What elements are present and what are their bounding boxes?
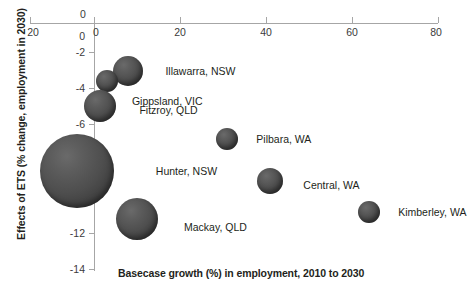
bubble-point (84, 90, 116, 122)
y-tick-label: -4 (55, 82, 85, 94)
y-tick-mark (89, 124, 95, 125)
y-tick-label: -6 (55, 118, 85, 130)
bubble-point (113, 56, 143, 86)
bubble-point (116, 198, 158, 240)
bubble-label: Pilbara, WA (256, 133, 311, 145)
y-tick-label: 0 (55, 30, 85, 42)
y-tick-label: -14 (55, 263, 85, 275)
y-tick-mark (89, 52, 95, 53)
bubble-label: Fitzroy, QLD (139, 104, 197, 116)
bubble-chart: Effects of ETS (% change, employment in … (0, 0, 467, 297)
bubble-point (216, 128, 238, 150)
y-tick-mark (89, 88, 95, 89)
x-tick-mark (180, 17, 181, 23)
x-tick-label: 0 (93, 26, 99, 38)
x-tick-label: 60 (346, 26, 358, 38)
bubble-point (40, 134, 114, 208)
y-tick-label: -2 (55, 46, 85, 58)
x-axis-title: Basecase growth (%) in employment, 2010 … (118, 267, 364, 279)
bubble-label: Central, WA (303, 179, 359, 191)
x-tick-label: 20 (174, 26, 186, 38)
plot-area: 20 0 20 40 60 80 0 0 -2 -4 -6 -8 (0, 0, 467, 297)
bubble-label: Illawarra, NSW (165, 65, 235, 77)
bubble-point (96, 70, 118, 92)
bubble-point (257, 168, 283, 194)
origin-zero-label: 0 (80, 8, 86, 20)
x-axis-line (30, 23, 438, 24)
y-tick-label: -12 (55, 227, 85, 239)
y-tick-mark (89, 233, 95, 234)
x-tick-label: 20 (27, 26, 39, 38)
x-tick-mark (94, 17, 95, 23)
bubble-point (358, 201, 380, 223)
x-tick-mark (30, 17, 31, 23)
x-tick-label: 80 (430, 26, 442, 38)
x-tick-mark (352, 17, 353, 23)
x-tick-label: 40 (260, 26, 272, 38)
y-tick-mark (89, 269, 95, 270)
x-tick-mark (266, 17, 267, 23)
bubble-label: Hunter, NSW (156, 165, 217, 177)
bubble-label: Kimberley, WA (398, 206, 466, 218)
x-tick-mark (438, 17, 439, 23)
bubble-label: Mackay, QLD (184, 221, 247, 233)
